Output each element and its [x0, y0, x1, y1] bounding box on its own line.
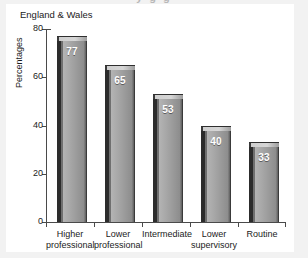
category-label-line2: professional	[94, 240, 142, 251]
bar-body	[105, 65, 135, 222]
bar-intermediate: 53	[153, 94, 183, 222]
bar-routine: 33	[249, 142, 279, 222]
category-label-line1: Lower	[94, 229, 142, 240]
x-axis-line	[46, 222, 286, 223]
bar-value-label: 77	[57, 46, 87, 57]
bar-top-cap	[249, 142, 279, 147]
x-tick-4	[238, 222, 239, 227]
x-tick-3	[190, 222, 191, 227]
bar-top-cap	[201, 126, 231, 131]
category-label-lower-supervisory: Lower supervisory	[190, 229, 238, 250]
x-tick-1	[94, 222, 95, 227]
clipped-heading-text: y g g	[0, 0, 308, 3]
category-label-intermediate: Intermediate	[142, 229, 190, 240]
y-tick-label-60: 60	[33, 71, 43, 81]
x-tick-2	[142, 222, 143, 227]
category-label-line1: Lower	[190, 229, 238, 240]
category-label-line1: Routine	[238, 229, 286, 240]
y-axis-title: Percentages	[14, 74, 24, 88]
y-tick-label-20: 20	[33, 168, 43, 178]
y-tick-label-80: 80	[33, 23, 43, 33]
x-axis-end-cap	[285, 222, 286, 227]
bar-top-cap	[57, 36, 87, 41]
bar-value-label: 33	[249, 152, 279, 163]
bar-value-label: 65	[105, 75, 135, 86]
x-tick-0	[46, 222, 47, 227]
figure-container: y g g England & Wales Percentages 80 60 …	[0, 0, 308, 258]
chart-title: England & Wales	[20, 9, 93, 20]
bar-lower-supervisory: 40	[201, 126, 231, 223]
category-label-higher-professional: Higher professional	[46, 229, 94, 250]
category-label-line1: Higher	[46, 229, 94, 240]
bar-top-cap	[153, 94, 183, 99]
category-label-lower-professional: Lower professional	[94, 229, 142, 250]
chart-card: England & Wales Percentages 80 60 40	[6, 4, 294, 252]
bar-value-label: 53	[153, 104, 183, 115]
bar-body	[57, 36, 87, 222]
bar-top-cap	[105, 65, 135, 70]
bar-lower-professional: 65	[105, 65, 135, 222]
category-label-line2: supervisory	[190, 240, 238, 251]
bar-higher-professional: 77	[57, 36, 87, 222]
y-tick-label-40: 40	[33, 120, 43, 130]
category-label-line1: Intermediate	[142, 229, 190, 240]
bar-value-label: 40	[201, 136, 231, 147]
category-label-routine: Routine	[238, 229, 286, 240]
category-label-line2: professional	[46, 240, 94, 251]
plot-area: 80 60 40 20 0	[46, 29, 286, 222]
y-tick-label-0: 0	[38, 216, 43, 226]
